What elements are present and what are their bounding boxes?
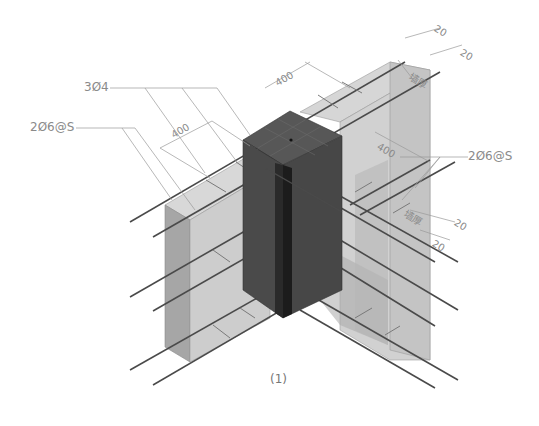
main-bars-label: 3Ø4: [84, 80, 109, 94]
figure-caption: (1): [270, 372, 287, 386]
tie-bars-right-label: 2Ø6@S: [468, 149, 512, 163]
constructional-column: [243, 111, 342, 318]
diagram-canvas: [0, 0, 539, 426]
tie-bars-left-label: 2Ø6@S: [30, 120, 74, 134]
